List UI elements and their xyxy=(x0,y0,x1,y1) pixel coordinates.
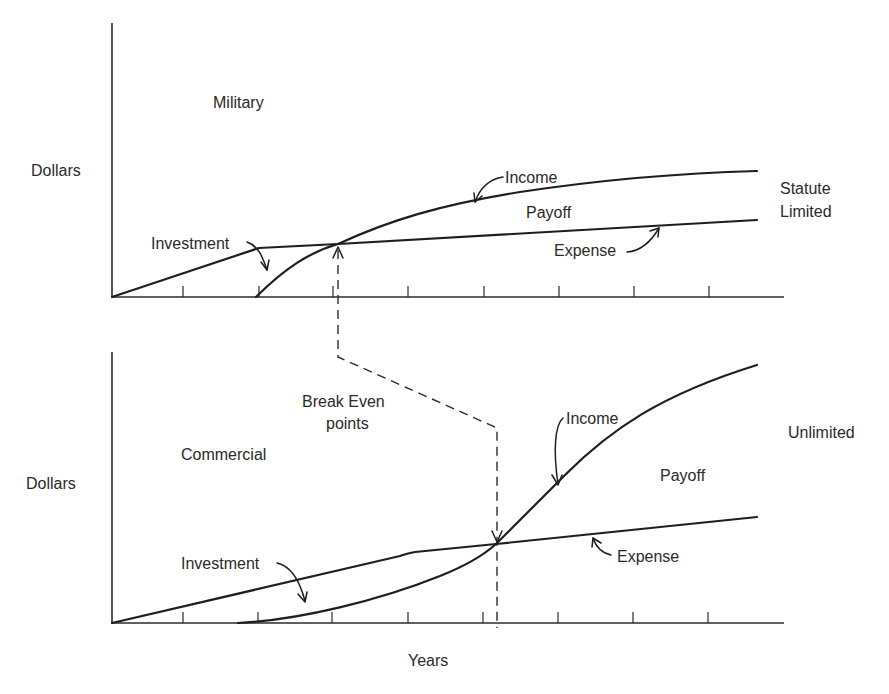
break-even-label-line2: points xyxy=(326,415,369,432)
military-investment-label: Investment xyxy=(151,235,230,252)
military-right-label-line1: Statute xyxy=(780,180,831,197)
military-expense-pointer xyxy=(627,228,659,252)
military-investment-expense-line xyxy=(112,220,757,297)
commercial-expense-label: Expense xyxy=(617,548,679,565)
break-even-label-line1: Break Even xyxy=(302,393,385,410)
military-title: Military xyxy=(213,94,264,111)
commercial-panel: Commercial Dollars Investment Income Pay… xyxy=(26,352,855,623)
military-income-label: Income xyxy=(505,169,558,186)
commercial-investment-label: Investment xyxy=(181,555,260,572)
x-axis-label: Years xyxy=(408,652,448,669)
break-even-dashed-path xyxy=(338,250,497,628)
commercial-income-pointer xyxy=(555,418,563,484)
commercial-y-label: Dollars xyxy=(26,475,76,492)
break-even-diagram: Military Dollars Investment Income Payof… xyxy=(0,0,889,694)
military-y-label: Dollars xyxy=(31,162,81,179)
military-panel: Military Dollars Investment Income Payof… xyxy=(31,23,832,297)
commercial-title: Commercial xyxy=(181,446,266,463)
military-right-label-line2: Limited xyxy=(780,203,832,220)
military-payoff-label: Payoff xyxy=(526,204,572,221)
commercial-income-label: Income xyxy=(566,410,619,427)
commercial-right-label: Unlimited xyxy=(788,424,855,441)
commercial-payoff-label: Payoff xyxy=(660,467,706,484)
military-expense-label: Expense xyxy=(554,242,616,259)
